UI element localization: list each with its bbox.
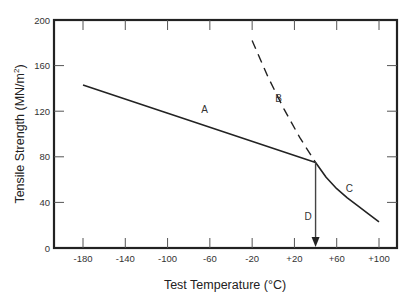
x-tick-label: -140 [116, 253, 135, 264]
y-tick-label: 0 [45, 243, 50, 254]
curve-label-d: D [305, 211, 312, 222]
x-tick-label: +20 [286, 253, 302, 264]
x-tick-label: -180 [73, 253, 92, 264]
tensile-strength-chart: -180-140-100-60-20+20+60+100 04080120160… [0, 0, 414, 297]
x-tick-label: +100 [368, 253, 389, 264]
y-tick-label: 80 [39, 151, 50, 162]
series-group [83, 41, 379, 248]
x-axis-title: Test Temperature (°C) [164, 278, 286, 292]
y-tick-label: 120 [34, 106, 50, 117]
y-axis-title-main: Tensile Strength (MN/m [13, 73, 27, 204]
y-axis-tick-labels: 04080120160200 [34, 15, 50, 254]
curve-label-b: B [275, 93, 282, 104]
x-axis-tick-labels: -180-140-100-60-20+20+60+100 [73, 253, 389, 264]
x-tick-label: -60 [203, 253, 217, 264]
arrowhead-icon [312, 237, 320, 247]
y-axis-title: Tensile Strength (MN/m2) [12, 64, 27, 203]
series-labels: ABCD [201, 93, 353, 221]
x-tick-label: +60 [329, 253, 345, 264]
plot-frame [54, 20, 397, 248]
y-tick-label: 200 [34, 15, 50, 26]
y-tick-label: 40 [39, 197, 50, 208]
y-axis-title-end: ) [13, 64, 27, 68]
x-tick-label: -20 [245, 253, 259, 264]
curve-label-c: C [346, 183, 353, 194]
y-tick-label: 160 [34, 60, 50, 71]
x-tick-label: -100 [158, 253, 177, 264]
curve-label-a: A [201, 104, 208, 115]
y-axis-ticks [54, 66, 397, 203]
